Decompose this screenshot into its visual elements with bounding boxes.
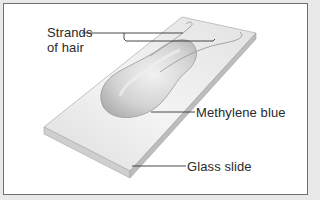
label-methylene-blue: Methylene blue xyxy=(196,105,286,120)
label-glass-slide: Glass slide xyxy=(187,159,252,174)
label-strands-line2: of hair xyxy=(47,40,93,55)
label-strands-line1: Strands xyxy=(47,25,93,40)
label-strands-of-hair: Strands of hair xyxy=(47,25,93,55)
